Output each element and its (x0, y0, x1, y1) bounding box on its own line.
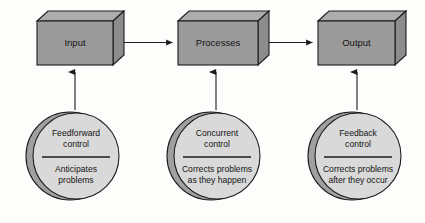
box-top-face (178, 11, 269, 21)
circle-title-line2: control (63, 139, 89, 149)
diagram-canvas: Input Processes Output (0, 0, 425, 223)
box-top-face (318, 11, 406, 21)
box-top-face (37, 11, 124, 21)
circle-face (33, 113, 119, 199)
box-output: Output (318, 11, 406, 65)
circle-face (315, 113, 401, 199)
box-side-face (395, 11, 406, 65)
circle-face (174, 113, 260, 199)
box-side-face (258, 11, 269, 65)
circle-feedback-control: Feedback control Corrects problems after… (308, 112, 401, 200)
box-label-output: Output (342, 37, 371, 48)
circle-desc-line2: after they occur (328, 175, 387, 185)
circle-title-line1: Feedforward (52, 128, 100, 138)
circle-feedforward-control: Feedforward control Anticipates problems (26, 112, 119, 200)
box-processes: Processes (178, 11, 269, 65)
circle-desc-line2: problems (58, 175, 93, 185)
circle-desc-line1: Anticipates (55, 164, 97, 174)
circle-desc-line2: as they happen (188, 175, 247, 185)
control-types-diagram: Input Processes Output (0, 0, 425, 223)
circle-concurrent-control: Concurrent control Corrects problems as … (167, 112, 260, 200)
circle-title-line1: Concurrent (196, 128, 239, 138)
circle-desc-line1: Corrects problems (323, 164, 393, 174)
box-side-face (113, 11, 124, 65)
box-input: Input (37, 11, 124, 65)
circle-title-line2: control (345, 139, 371, 149)
box-label-input: Input (64, 37, 85, 48)
circle-title-line2: control (204, 139, 230, 149)
box-label-processes: Processes (196, 37, 241, 48)
circle-title-line1: Feedback (339, 128, 377, 138)
circle-desc-line1: Corrects problems (182, 164, 252, 174)
